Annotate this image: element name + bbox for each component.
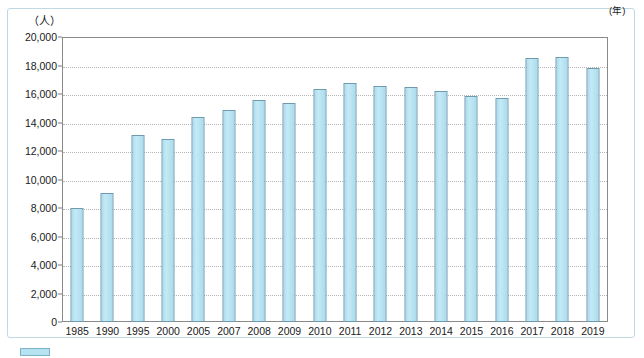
- x-axis-labels: 1985199019952000200520072008200920102011…: [62, 323, 608, 343]
- x-axis-tick-label: 2013: [399, 325, 422, 337]
- x-axis-tick-label: 2014: [429, 325, 452, 337]
- bar-slot: [183, 37, 213, 322]
- bar-slot: [487, 37, 517, 322]
- bar-slot: [244, 37, 274, 322]
- y-axis-tick-label: 6,000: [0, 231, 62, 243]
- y-axis-labels: 02,0004,0006,0008,00010,00012,00014,0001…: [0, 0, 62, 358]
- bar: [556, 57, 569, 322]
- bar: [465, 96, 478, 322]
- bar: [71, 208, 84, 322]
- bar: [404, 87, 417, 322]
- x-axis-tick-label: 2018: [551, 325, 574, 337]
- x-axis-tick-label: 1995: [126, 325, 149, 337]
- x-axis-tick-label: 2007: [217, 325, 240, 337]
- bar: [435, 91, 448, 322]
- bar-series: [62, 37, 608, 322]
- y-axis-tick-label: 14,000: [0, 117, 62, 129]
- x-axis-tick-label: 2008: [247, 325, 270, 337]
- bar-slot: [153, 37, 183, 322]
- bar: [586, 68, 599, 322]
- bar-slot: [335, 37, 365, 322]
- bar-slot: [517, 37, 547, 322]
- bar-slot: [396, 37, 426, 322]
- x-axis-tick-label: 2019: [581, 325, 604, 337]
- bar: [101, 193, 114, 322]
- x-axis-tick-label: 2012: [369, 325, 392, 337]
- bar: [253, 100, 266, 322]
- bar: [374, 86, 387, 322]
- chart-figure: （人） 02,0004,0006,0008,00010,00012,00014,…: [0, 0, 644, 358]
- bar: [313, 89, 326, 322]
- bar: [526, 58, 539, 322]
- bar: [192, 117, 205, 322]
- bar-slot: [456, 37, 486, 322]
- bar-slot: [426, 37, 456, 322]
- y-axis-tick-label: 10,000: [0, 174, 62, 186]
- y-axis-tick-label: 12,000: [0, 145, 62, 157]
- bar: [495, 98, 508, 322]
- x-axis-tick-label: 2009: [278, 325, 301, 337]
- bar-slot: [92, 37, 122, 322]
- legend-swatch: [20, 348, 50, 356]
- x-axis-unit-label: (年): [609, 3, 625, 17]
- x-axis-tick-label: 2000: [156, 325, 179, 337]
- bar-slot: [274, 37, 304, 322]
- bar-slot: [214, 37, 244, 322]
- bar-slot: [62, 37, 92, 322]
- x-axis-tick-label: 2005: [187, 325, 210, 337]
- x-axis-tick-label: 2010: [308, 325, 331, 337]
- x-axis-tick-label: 2015: [460, 325, 483, 337]
- bar: [344, 83, 357, 322]
- y-axis-tick-label: 18,000: [0, 60, 62, 72]
- x-axis-tick-label: 1990: [96, 325, 119, 337]
- y-axis-tick-label: 8,000: [0, 202, 62, 214]
- x-axis-tick-label: 1985: [65, 325, 88, 337]
- bar-slot: [123, 37, 153, 322]
- y-axis-tick-label: 4,000: [0, 259, 62, 271]
- bar-slot: [547, 37, 577, 322]
- y-axis-tick-label: 0: [0, 316, 62, 328]
- y-axis-tick-label: 2,000: [0, 288, 62, 300]
- bar: [162, 139, 175, 322]
- bar-slot: [578, 37, 608, 322]
- x-axis-tick-label: 2016: [490, 325, 513, 337]
- bar: [222, 110, 235, 322]
- bar-slot: [305, 37, 335, 322]
- y-axis-tick-label: 20,000: [0, 31, 62, 43]
- x-axis-tick-label: 2011: [339, 325, 362, 337]
- x-axis-tick-label: 2017: [520, 325, 543, 337]
- bar: [283, 103, 296, 322]
- bar: [131, 135, 144, 322]
- y-axis-tick-label: 16,000: [0, 88, 62, 100]
- bar-slot: [365, 37, 395, 322]
